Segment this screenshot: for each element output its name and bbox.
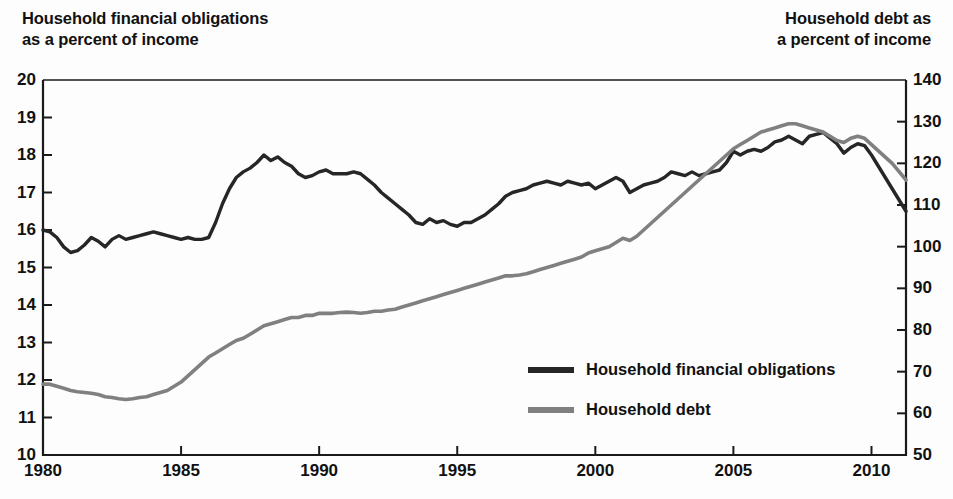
legend-label: Household debt <box>586 400 711 419</box>
chart-figure: Household financial obligations as a per… <box>0 0 953 499</box>
y-axis-tick-label-left: 11 <box>2 409 36 426</box>
y-axis-tick-label-left: 20 <box>2 71 36 88</box>
y-axis-tick-label-right: 80 <box>913 321 953 338</box>
y-axis-tick-label-left: 15 <box>2 259 36 276</box>
y-axis-tick-label-left: 17 <box>2 184 36 201</box>
plot-area <box>0 0 953 499</box>
y-axis-tick-label-right: 100 <box>913 238 953 255</box>
y-axis-tick-label-right: 140 <box>913 71 953 88</box>
y-axis-tick-label-left: 19 <box>2 109 36 126</box>
x-axis-tick-label: 1980 <box>13 462 73 479</box>
legend-swatch <box>528 407 574 413</box>
legend-swatch <box>528 367 574 373</box>
axis-frame <box>43 80 906 455</box>
y-axis-tick-label-right: 120 <box>913 154 953 171</box>
data-series <box>43 124 906 400</box>
y-axis-tick-label-left: 14 <box>2 296 36 313</box>
y-axis-tick-label-left: 13 <box>2 334 36 351</box>
x-axis-tick-label: 2000 <box>565 462 625 479</box>
x-axis-tick-label: 2005 <box>703 462 763 479</box>
y-axis-tick-label-right: 90 <box>913 279 953 296</box>
x-axis-tick-label: 2010 <box>841 462 901 479</box>
x-axis-tick-label: 1990 <box>289 462 349 479</box>
y-axis-tick-label-right: 60 <box>913 404 953 421</box>
y-axis-tick-label-right: 130 <box>913 113 953 130</box>
y-axis-tick-label-left: 16 <box>2 221 36 238</box>
x-axis-tick-label: 1995 <box>427 462 487 479</box>
legend-label: Household financial obligations <box>586 360 835 379</box>
y-axis-tick-label-left: 18 <box>2 146 36 163</box>
y-axis-tick-label-right: 50 <box>913 446 953 463</box>
y-axis-tick-label-left: 12 <box>2 371 36 388</box>
y-axis-tick-label-right: 70 <box>913 363 953 380</box>
x-axis-tick-label: 1985 <box>151 462 211 479</box>
y-axis-tick-label-right: 110 <box>913 196 953 213</box>
